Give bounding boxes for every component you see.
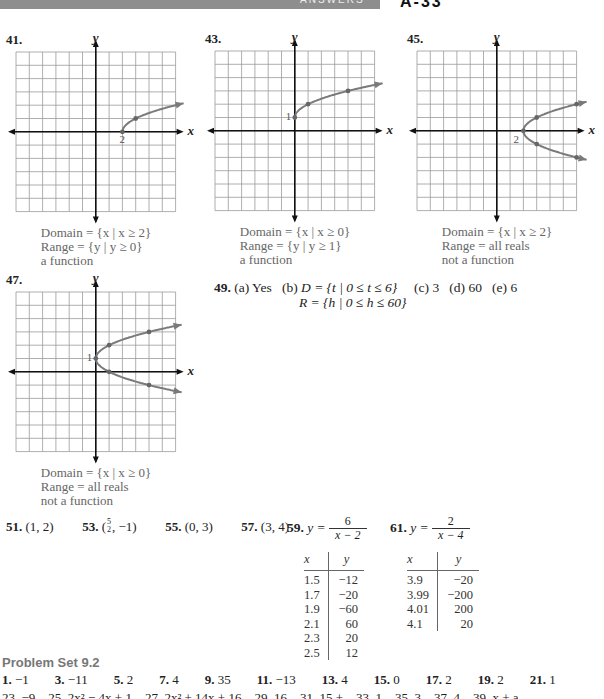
cell-y: −200 <box>438 588 479 603</box>
answer-value: 2 <box>127 672 134 687</box>
cell-y: 20 <box>328 631 364 646</box>
answer-57: (3, 4) <box>261 519 289 534</box>
problem-number: 3. <box>55 672 65 687</box>
running-header-label: ANSWERS <box>300 0 365 5</box>
page-number: A-33 <box>400 0 443 11</box>
column-header-y: y <box>438 552 479 571</box>
problem-answer: 11. −13 <box>257 672 296 687</box>
coordinate-graph <box>6 40 200 230</box>
cell-x: 4.01 <box>407 602 438 617</box>
answer-value: 1 <box>549 672 556 687</box>
graph-caption: Domain = {x | x ≥ 2}Range = all realsnot… <box>442 225 552 267</box>
answer-value: 0 <box>393 672 400 687</box>
axes <box>8 40 184 224</box>
answer-value: 2 <box>497 672 504 687</box>
equation-lhs: y = <box>410 520 428 535</box>
problem-answer: 21. 1 <box>530 672 556 687</box>
problem-number: 9. <box>205 672 215 687</box>
y-axis-label: y <box>494 29 500 45</box>
graph-caption: Domain = {x | x ≥ 2}Range = {y | y ≥ 0}a… <box>41 226 151 268</box>
problem-number: 61. <box>390 520 407 535</box>
cell-x: 2.5 <box>304 646 328 661</box>
problem-number: 49. <box>214 280 231 295</box>
problem-number: 13. <box>322 672 338 687</box>
table-row: 3.9−20 <box>407 571 479 588</box>
fraction-denominator: x − 2 <box>329 529 366 542</box>
function-status: a function <box>240 253 350 267</box>
problem-number: 17. <box>426 672 442 687</box>
problem-set-row-1: 1. −13. −115. 27. 49. 3511. −1313. 415. … <box>2 672 582 688</box>
cell-y: 200 <box>438 602 479 617</box>
problem-answer: 19. 2 <box>478 672 504 687</box>
fraction-numerator: 2 <box>432 515 469 529</box>
cell-x: 3.99 <box>407 588 438 603</box>
table-61: x y 3.9−203.99−2004.012004.120 <box>407 552 479 631</box>
domain-text: Domain = {x | x ≥ 2} <box>41 226 151 240</box>
problem-number: 55. <box>165 519 181 534</box>
problem-number: 7. <box>159 672 169 687</box>
answers-51-57: 51. (1, 2) 53. (52, −1) 55. (0, 3) 57. (… <box>6 518 289 535</box>
cell-y: 20 <box>438 617 479 632</box>
table-row: 1.9−60 <box>304 602 364 617</box>
answer-51: (1, 2) <box>26 519 54 534</box>
problem-answer: 15. 0 <box>374 672 400 687</box>
cell-x: 1.7 <box>304 588 328 603</box>
answer-49e: (e) 6 <box>492 280 517 295</box>
column-header-y: y <box>328 552 364 571</box>
problem-set-row-2-text: 23. −9 25. 2x² − 4x + 1 27. 2x² + 14x + … <box>2 690 519 699</box>
range-text: Range = all reals <box>442 239 552 253</box>
coordinate-graph <box>407 39 601 229</box>
y-axis-label: y <box>292 29 298 45</box>
domain-text: Domain = {x | x ≥ 0} <box>240 225 350 239</box>
answer-value: 4 <box>341 672 348 687</box>
problem-number: 15. <box>374 672 390 687</box>
y-axis-label: y <box>93 270 99 286</box>
function-status: not a function <box>41 494 151 508</box>
problem-number: 57. <box>241 519 257 534</box>
cell-x: 2.1 <box>304 617 328 632</box>
section-title: Problem Set 9.2 <box>2 655 100 670</box>
table-row: 2.160 <box>304 617 364 632</box>
problem-number: 1. <box>2 672 12 687</box>
answer-49b-domain: D = {t | 0 ≤ t ≤ 6} <box>301 280 397 295</box>
axes <box>8 280 184 464</box>
cell-y: −60 <box>328 602 364 617</box>
answer-value: −11 <box>68 672 88 687</box>
function-curve <box>292 81 382 119</box>
cell-x: 1.9 <box>304 602 328 617</box>
cell-x: 3.9 <box>407 571 438 588</box>
range-text: Range = all reals <box>41 480 151 494</box>
table-row: 3.99−200 <box>407 588 479 603</box>
function-curve <box>120 102 184 135</box>
problem-number: 19. <box>478 672 494 687</box>
axes <box>409 39 585 223</box>
fraction-denominator: x − 4 <box>432 529 469 542</box>
function-status: a function <box>41 254 151 268</box>
column-header-x: x <box>407 552 438 571</box>
answer-49: 49. (a) Yes (b) D = {t | 0 ≤ t ≤ 6} (c) … <box>214 280 517 296</box>
equation-lhs: y = <box>307 520 325 535</box>
table-row: 2.320 <box>304 631 364 646</box>
answer-55: (0, 3) <box>185 519 213 534</box>
table-row: 4.120 <box>407 617 479 632</box>
answer-value: 2 <box>445 672 452 687</box>
cell-y: −20 <box>328 588 364 603</box>
table-row: 1.5−12 <box>304 571 364 588</box>
x-axis-label: x <box>188 123 195 139</box>
cell-y: 12 <box>328 646 364 661</box>
problem-number: 51. <box>6 519 22 534</box>
cell-y: −20 <box>438 571 479 588</box>
domain-text: Domain = {x | x ≥ 0} <box>41 466 151 480</box>
answer-59-equation: 59. y = 6x − 2 <box>287 515 367 542</box>
cell-x: 4.1 <box>407 617 438 632</box>
table-row: 1.7−20 <box>304 588 364 603</box>
column-header-x: x <box>304 552 328 571</box>
table-row: 2.512 <box>304 646 364 661</box>
point-label: 2 <box>513 133 519 145</box>
coordinate-graph <box>6 280 200 470</box>
x-axis-label: x <box>188 363 195 379</box>
answer-49b-label: (b) <box>282 280 298 295</box>
problem-number: 5. <box>114 672 124 687</box>
graph-caption: Domain = {x | x ≥ 0}Range = all realsnot… <box>41 466 151 508</box>
coordinate-graph <box>205 39 399 229</box>
